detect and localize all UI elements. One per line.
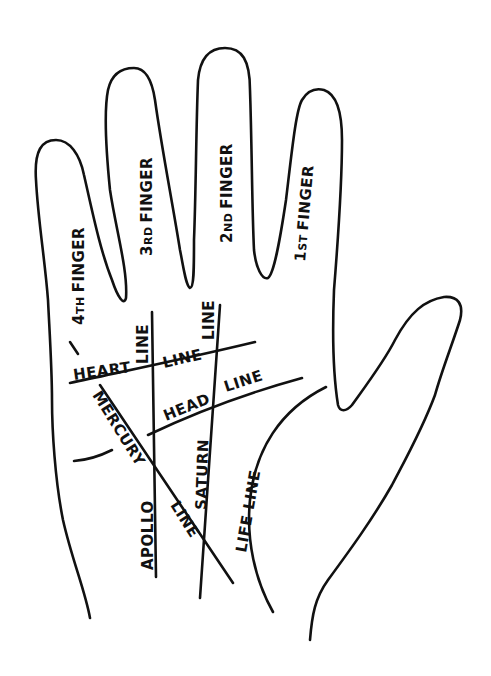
- svg-text:LINE: LINE: [161, 345, 204, 372]
- saturn-line-label: SATURN: [192, 439, 212, 510]
- svg-text:HEAD: HEAD: [161, 390, 213, 425]
- svg-text:LINE: LINE: [134, 324, 152, 364]
- svg-text:2NDFINGER: 2NDFINGER: [218, 143, 236, 243]
- svg-text:MERCURY: MERCURY: [89, 388, 150, 470]
- svg-text:3RDFINGER: 3RDFINGER: [138, 157, 156, 256]
- palm-diagram: 4THFINGER 3RDFINGER 2NDFINGER 1STFINGER …: [0, 0, 491, 676]
- heart-line-label-heart: HEART: [72, 358, 132, 384]
- heart-line-label-line: LINE: [161, 345, 204, 372]
- third-finger-label: 3RDFINGER: [138, 157, 156, 256]
- head-line-label-head: HEAD: [161, 390, 213, 425]
- saturn-line-label-line-top: LINE: [200, 300, 218, 340]
- crease-mark-upper: [70, 342, 78, 354]
- svg-text:HEART: HEART: [72, 358, 132, 384]
- svg-text:LINE: LINE: [200, 300, 218, 340]
- crease-mark-lower: [74, 450, 112, 461]
- svg-text:1STFINGER: 1STFINGER: [291, 164, 317, 262]
- svg-text:SATURN: SATURN: [192, 439, 212, 510]
- svg-text:APOLLO: APOLLO: [139, 500, 157, 570]
- first-finger-label: 1STFINGER: [291, 164, 317, 262]
- apollo-line-label-line-top: LINE: [134, 324, 152, 364]
- fourth-finger-label: 4THFINGER: [70, 227, 88, 325]
- life-line-label: LIFE LINE: [232, 469, 264, 554]
- mercury-line-label: MERCURY: [89, 388, 150, 470]
- svg-text:LIFE LINE: LIFE LINE: [232, 469, 264, 554]
- second-finger-label: 2NDFINGER: [218, 143, 236, 243]
- life-line: [249, 387, 326, 612]
- svg-text:4THFINGER: 4THFINGER: [70, 227, 88, 325]
- apollo-line-label: APOLLO: [139, 500, 157, 570]
